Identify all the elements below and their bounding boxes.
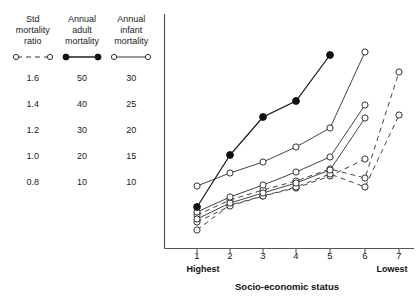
series-std-mortality-ratio-b [194, 112, 402, 225]
series-std-mortality-ratio-c [194, 156, 368, 233]
axis-spines [165, 14, 415, 249]
x-tick-label-3: 3 [260, 250, 265, 261]
x-tick-label-7: 7 [396, 250, 401, 261]
series-std-mortality-ratio-a [194, 69, 402, 218]
series-annual-infant-mortality-a [194, 49, 368, 189]
plot-canvas [0, 0, 418, 304]
x-tick-label-4: 4 [293, 250, 298, 261]
x-tick-label-5: 5 [327, 250, 332, 261]
plot-area: 1 2 3 4 5 6 7 Highest Lowest Socio-econo… [0, 0, 418, 304]
x-tick-label-1: 1 [194, 250, 199, 261]
x-axis-high-label: Lowest [376, 264, 407, 274]
x-tick-label-6: 6 [362, 250, 367, 261]
series-annual-infant-mortality-b [194, 102, 368, 215]
x-axis-title: Socio-economic status [164, 281, 410, 292]
series-annual-infant-mortality-c [194, 115, 368, 222]
chart-figure: Std mortality ratio 1.6 1.4 1.2 1.0 0.8 … [0, 0, 418, 304]
x-axis-low-label: Highest [186, 264, 219, 274]
x-tick-label-2: 2 [227, 250, 232, 261]
